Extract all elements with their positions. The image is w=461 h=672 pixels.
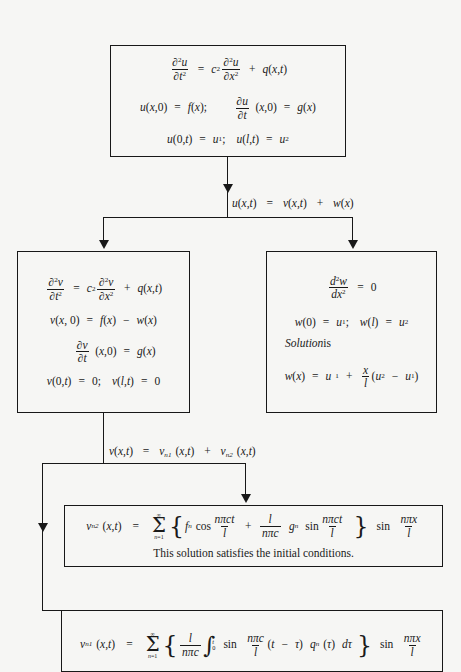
label-u-decomposition: u(x,t) = v(x,t) + w(x) [232,198,354,210]
equation-v-initial-displacement: v(x, 0) = f(x) − w(x) [50,315,157,327]
equation-w-boundary-conditions: w(0) = u1; w(l) = u2 [295,317,408,329]
equation-boundary-conditions-u: u(0,t) = u1; u(l,t) = u2 [167,134,289,146]
equation-initial-conditions-u: u(x,0) = f(x); ∂u∂t (x,0) = g(x) [140,95,316,121]
connector-split-stem [227,188,228,218]
arrowhead-vn1-rail-midpoint [38,523,48,532]
arrowhead-to-v-box [99,240,109,249]
arrowhead-to-w-box [348,240,358,249]
equation-v-pde: ∂2v∂t2 = c2 ∂2v∂x2 + q(x,t) [45,276,162,302]
equation-vn2-series: vn2(x,t) = ∞ Σ n=1 { fncos nπctl + lnπc … [86,512,420,540]
connector-v-split-left-rail [42,463,43,611]
label-w-solution-is: Solution is [267,338,331,350]
box-original-problem: ∂2u∂t2 = c2 ∂2u∂x2 + q(x,t) u(x,0) = f(x… [110,45,346,157]
connector-v-to-split [103,413,104,464]
equation-wave-pde: ∂2u∂t2 = c2 ∂2u∂x2 + q(x,t) [169,56,287,82]
arrowhead-to-vn2-box [241,494,251,503]
equation-v-initial-velocity: ∂v∂t (x,0) = g(x) [51,339,155,365]
label-v-decomposition: v(x,t) = vn1(x,t) + vn2(x,t) [109,446,256,459]
connector-v-split-bus [42,463,246,464]
equation-vn1-series: vn1(x,t) = ∞ Σ n=1 { lnπc ∫ t0 sin nπcl … [80,631,424,659]
note-vn2-satisfies-initial-conditions: This solution satisfies the initial cond… [153,548,354,560]
box-w-subproblem: d2wdx2 =0 w(0) = u1; w(l) = u2 Solution … [266,251,437,413]
box-v-subproblem: ∂2v∂t2 = c2 ∂2v∂x2 + q(x,t) v(x, 0) = f(… [17,251,190,413]
equation-w-solution: w(x) = u1 + xl (u2 − u1) [285,364,419,390]
solution-word-tail: is [323,338,331,350]
box-vn1-solution: vn1(x,t) = ∞ Σ n=1 { lnπc ∫ t0 sin nπcl … [61,610,443,672]
flowchart-canvas: ∂2u∂t2 = c2 ∂2u∂x2 + q(x,t) u(x,0) = f(x… [0,0,461,672]
equation-v-boundary-conditions: v(0,t) =0; v(l,t) =0 [47,376,160,388]
equation-w-ode: d2wdx2 =0 [326,275,376,301]
connector-v-split-right-drop [245,463,246,497]
connector-split-bus [103,217,353,218]
connector-rail-to-vn1-box [42,610,62,611]
box-vn2-solution: vn2(x,t) = ∞ Σ n=1 { fncos nπctl + lnπc … [64,505,443,567]
solution-word: Solution [285,338,323,350]
